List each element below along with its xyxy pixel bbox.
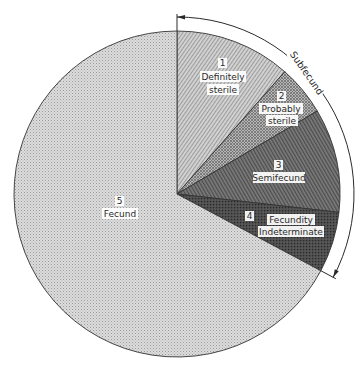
slice-4-number: 4 (247, 211, 253, 221)
arrowhead-icon (333, 269, 339, 277)
slice-2-label-line1: Probably (261, 104, 301, 114)
slice-5-label-line1: Fecund (104, 209, 136, 219)
slice-4-label-line1: Fecundity (269, 215, 313, 225)
slice-1-label-line1: Definitely (201, 72, 245, 82)
slice-4-label-line2: Indeterminate (259, 227, 323, 237)
pie-slices (14, 31, 340, 357)
slice-2-label-line2: sterile (268, 116, 296, 126)
bracket-end-tick (321, 271, 336, 279)
slice-3-label-line1: Semifecund (252, 173, 305, 183)
pie-chart: Subfecund 1 Definitely sterile 2 Probabl… (0, 0, 360, 366)
arrowhead-icon (177, 15, 185, 19)
slice-1-label-line2: sterile (209, 85, 237, 95)
slice-1-number: 1 (220, 58, 226, 68)
slice-5-number: 5 (117, 196, 123, 206)
slice-3-number: 3 (276, 160, 282, 170)
slice-2-number: 2 (279, 91, 285, 101)
